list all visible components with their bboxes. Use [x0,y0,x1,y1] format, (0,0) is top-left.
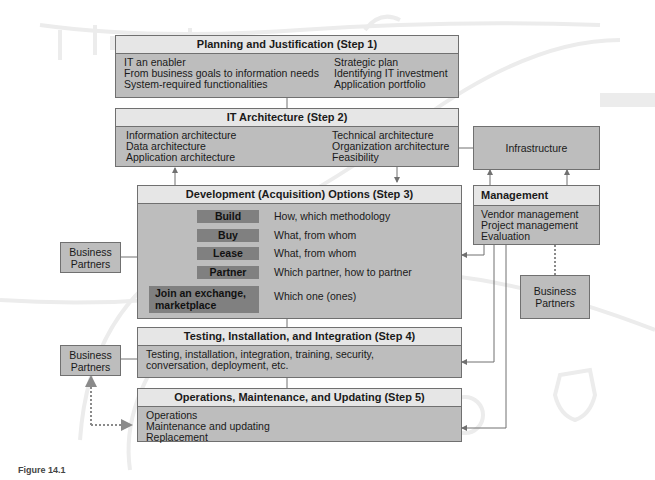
option-label: Buy [218,229,238,241]
option-label: Partner [210,266,247,278]
step2-architecture-box: IT Architecture (Step 2) Information arc… [115,108,459,167]
option-lease: Lease [197,247,259,260]
step2-item: Feasibility [332,152,449,163]
option-label: Join an exchange, marketplace [155,287,246,311]
step5-title: Operations, Maintenance, and Updating (S… [138,389,461,407]
step4-testing-box: Testing, Installation, and Integration (… [137,327,462,378]
step3-title: Development (Acquisition) Options (Step … [138,186,461,204]
option-description: What, from whom [274,248,356,259]
business-partners-box: Business Partners [520,275,590,319]
option-join-exchange: Join an exchange, marketplace [149,286,259,313]
step5-item: Replacement [146,432,453,443]
step1-planning-box: Planning and Justification (Step 1) IT a… [115,35,459,98]
step1-item: Application portfolio [334,79,448,90]
option-description: Which one (ones) [274,291,356,302]
step4-title: Testing, Installation, and Integration (… [138,328,461,346]
option-label: Lease [213,247,243,259]
option-description: Which partner, how to partner [274,267,412,278]
option-build: Build [197,210,259,223]
option-label: Build [215,210,241,222]
step1-title: Planning and Justification (Step 1) [116,36,458,54]
step4-item: conversation, deployment, etc. [146,360,453,371]
management-box: Management Vendor management Project man… [473,185,600,245]
management-title: Management [474,186,599,206]
step5-operations-box: Operations, Maintenance, and Updating (S… [137,388,462,442]
step2-item: Application architecture [126,152,236,163]
option-description: How, which methodology [274,211,390,222]
management-item: Evaluation [481,231,592,242]
business-partners-label: Business Partners [66,349,116,373]
business-partners-box: Business Partners [60,345,121,376]
figure-caption: Figure 14.1 [18,465,66,475]
business-partners-label: Business Partners [530,285,580,309]
step1-item: System-required functionalities [124,79,319,90]
business-partners-label: Business Partners [66,246,116,270]
business-partners-box: Business Partners [60,242,121,273]
infrastructure-box: Infrastructure [473,126,600,170]
option-buy: Buy [197,229,259,242]
option-description: What, from whom [274,230,356,241]
step3-development-box: Development (Acquisition) Options (Step … [137,185,462,319]
infrastructure-label: Infrastructure [506,142,568,154]
step2-title: IT Architecture (Step 2) [116,109,458,127]
option-partner: Partner [197,266,259,279]
